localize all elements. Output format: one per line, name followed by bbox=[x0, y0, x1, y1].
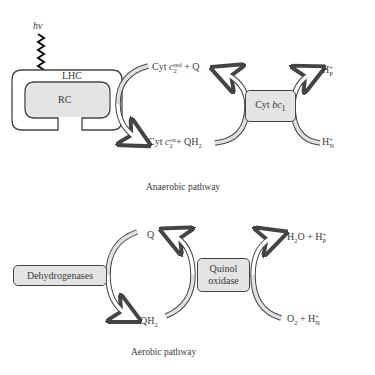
h-p-label: H+P bbox=[322, 65, 333, 77]
quinol-oxidase-box: Quinoloxidase bbox=[197, 258, 250, 292]
aerobic-caption: Aerobic pathway bbox=[131, 347, 196, 357]
lhc-label: LHC bbox=[62, 71, 82, 81]
light-label: hν bbox=[33, 21, 42, 31]
o2-hn-label: O2 + H+N bbox=[287, 314, 320, 327]
h-n-label: H+N bbox=[322, 137, 334, 149]
cyt-c2-red-label: Cyt cred2 + Q bbox=[152, 62, 200, 74]
q-cycle-arrows bbox=[108, 232, 193, 316]
q-label: Q bbox=[147, 230, 154, 240]
h2o-hp-label: H2O + H+P bbox=[287, 232, 326, 245]
anaerobic-caption: Anaerobic pathway bbox=[146, 182, 220, 192]
cyt-bc1-box: Cyt bc1 bbox=[245, 90, 296, 122]
cyt-c2-ox-label: Cyt cox2+ QH2 bbox=[148, 137, 202, 150]
oxidase-arrows bbox=[253, 236, 281, 318]
dehydrogenases-box: Dehydrogenases bbox=[13, 265, 107, 286]
qh2-label: QH2 bbox=[140, 316, 158, 329]
rc-label: RC bbox=[58, 95, 71, 105]
